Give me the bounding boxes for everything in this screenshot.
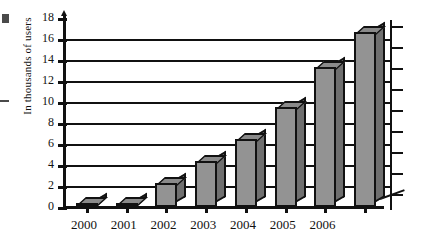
y-axis-tick-label: 6 — [32, 137, 54, 149]
bar — [195, 161, 217, 207]
bar-side-face — [376, 21, 385, 202]
x-axis-tick — [126, 207, 129, 213]
y-axis-tick-label: 0 — [32, 200, 54, 212]
right-axis-tick — [391, 68, 403, 70]
gridline — [66, 39, 392, 41]
y-axis-tick-label: 14 — [32, 53, 54, 65]
x-axis-tick — [245, 207, 248, 213]
bar-front-face — [275, 107, 297, 207]
y-axis-tick — [58, 102, 67, 105]
y-axis-tick — [58, 144, 67, 147]
bar — [354, 32, 376, 207]
y-axis-tick — [58, 39, 67, 42]
x-axis-tick — [165, 207, 168, 213]
y-axis-tick — [58, 60, 67, 63]
bar-front-face — [116, 203, 138, 207]
x-axis-tick — [205, 207, 208, 213]
y-axis-tick-label: 18 — [32, 11, 54, 23]
bar-side-face — [336, 57, 345, 202]
y-axis-tick-label: 2 — [32, 179, 54, 191]
y-axis-line — [63, 14, 66, 210]
bar-front-face — [76, 203, 98, 207]
right-axis-tick — [391, 152, 403, 154]
bar-front-face — [155, 183, 177, 207]
x-axis-tick — [324, 207, 327, 213]
bar — [314, 67, 336, 207]
y-axis-tick-label: 16 — [32, 32, 54, 44]
bar — [155, 183, 177, 207]
y-axis-tick-label: 4 — [32, 158, 54, 170]
y-axis-tick — [58, 81, 67, 84]
y-axis-tick-label: 8 — [32, 116, 54, 128]
bar-front-face — [354, 32, 376, 207]
bar — [235, 139, 257, 207]
x-axis-tick — [285, 207, 288, 213]
bar-front-face — [235, 139, 257, 207]
right-axis-tick — [391, 194, 403, 196]
x-axis-tick — [86, 207, 89, 213]
right-axis-tick — [391, 47, 403, 49]
x-axis-tick — [364, 207, 367, 213]
y-axis-tick — [58, 123, 67, 126]
y-axis-tick — [58, 186, 67, 189]
right-axis-tick — [391, 173, 403, 175]
y-axis-tick-label: 12 — [32, 74, 54, 86]
right-axis-tick — [391, 26, 403, 28]
bar-front-face — [314, 67, 336, 207]
x-axis-tick-label: 2006 — [299, 218, 345, 232]
y-axis-tick — [58, 207, 67, 210]
bar-side-face — [297, 97, 306, 202]
scan-artifact-mark — [2, 14, 9, 23]
right-axis-tick — [391, 89, 403, 91]
right-axis-tick — [391, 110, 403, 112]
scan-artifact-mark — [0, 100, 9, 102]
bar — [275, 107, 297, 207]
y-axis-tick-label: 10 — [32, 95, 54, 107]
bar-chart: In thousands of users 024681012141618 20… — [0, 0, 426, 250]
bar-front-face — [195, 161, 217, 207]
right-axis-tick — [391, 131, 403, 133]
y-axis-tick — [58, 165, 67, 168]
bar — [116, 203, 138, 207]
y-axis-tick — [58, 18, 67, 21]
bar — [76, 203, 98, 207]
